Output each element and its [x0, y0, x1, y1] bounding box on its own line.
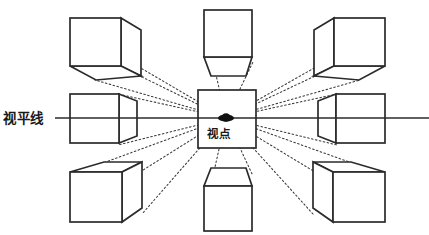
cube-bottom-right-side-face — [313, 162, 333, 222]
cube-bottom-right-front-face — [333, 172, 385, 222]
cube-top-right-front-face — [334, 18, 385, 66]
cube-top-center — [204, 10, 252, 76]
perspective-canvas: 视平线 视点 — [0, 0, 429, 235]
cube-bottom-center — [204, 168, 252, 231]
horizon-line-label: 视平线 — [3, 110, 44, 126]
cube-top-center-front-face — [204, 10, 252, 57]
cube-top-center-bottom-face — [204, 57, 252, 76]
cube-bottom-left-side-face — [122, 162, 142, 222]
cube-bottom-left-front-face — [70, 172, 122, 222]
cube-top-left-front-face — [70, 18, 121, 66]
cube-bottom-right — [313, 162, 385, 222]
cube-top-right — [314, 18, 385, 80]
cube-bottom-center-top-face — [204, 168, 252, 186]
perspective-diagram: 视平线 视点 — [0, 0, 429, 235]
cube-bottom-center-front-face — [204, 186, 252, 231]
cube-top-left — [70, 18, 141, 80]
vanishing-point-label: 视点 — [207, 127, 231, 141]
vanishing-point-core — [222, 113, 230, 121]
cube-bottom-left — [70, 162, 142, 222]
